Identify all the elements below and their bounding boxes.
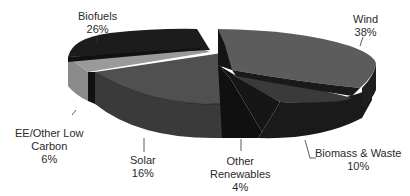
label-wind-pct: 38% [353, 26, 378, 39]
label-biofuels-name: Biofuels [78, 10, 117, 23]
label-biomass-waste: Biomass & Waste 10% [315, 147, 401, 173]
label-other-name-line1: Other [210, 155, 271, 168]
label-solar: Solar 16% [130, 154, 156, 180]
label-biofuels-pct: 26% [78, 23, 117, 36]
label-biomass-pct: 10% [315, 160, 401, 173]
label-wind: Wind 38% [353, 13, 378, 39]
label-wind-name: Wind [353, 13, 378, 26]
label-ee-name-line1: EE/Other Low [15, 127, 83, 140]
label-solar-pct: 16% [130, 167, 156, 180]
label-biofuels: Biofuels 26% [78, 10, 117, 36]
label-other-pct: 4% [210, 181, 271, 194]
label-ee-other-low-carbon: EE/Other Low Carbon 6% [15, 127, 83, 166]
leader-ee [72, 110, 76, 115]
label-solar-name: Solar [130, 154, 156, 167]
label-other-name-line2: Renewables [210, 168, 271, 181]
label-ee-pct: 6% [15, 153, 83, 166]
label-ee-name-line2: Carbon [15, 140, 83, 153]
label-biomass-name: Biomass & Waste [315, 147, 401, 160]
slice-gap-shadow [88, 72, 95, 104]
label-other-renewables: Other Renewables 4% [210, 155, 271, 194]
